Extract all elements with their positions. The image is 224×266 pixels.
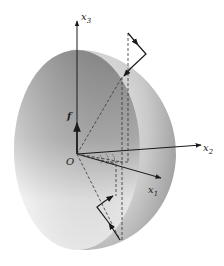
hemisphere-diagram: x3 x2 x1 O f <box>0 0 224 266</box>
x2-label: x2 <box>203 142 214 156</box>
x3-label: x3 <box>81 11 92 25</box>
origin-label: O <box>66 156 74 167</box>
